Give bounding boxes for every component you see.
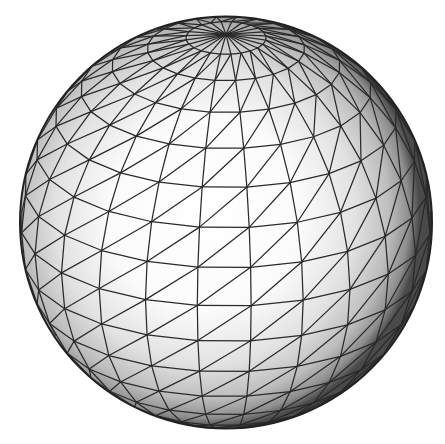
mesh-edge — [360, 113, 361, 161]
mesh-edge — [197, 305, 198, 340]
sphere-mesh — [0, 0, 445, 444]
sphere-figure: Triangulated sphere mesh — [0, 0, 445, 444]
mesh-edge — [197, 267, 198, 305]
